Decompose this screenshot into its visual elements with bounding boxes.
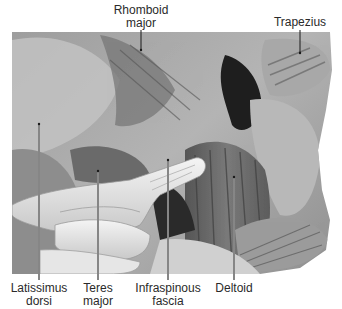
label-rhomboid-major-line2: major xyxy=(114,17,169,30)
label-latissimus-dorsi: Latissimus dorsi xyxy=(11,282,68,308)
dissection-photo xyxy=(0,0,342,309)
anatomy-figure: Rhomboid major Trapezius Latissimus dors… xyxy=(0,0,342,309)
label-rhomboid-major: Rhomboid major xyxy=(114,4,169,30)
label-latissimus-dorsi-line2: dorsi xyxy=(11,295,68,308)
label-trapezius: Trapezius xyxy=(274,16,326,29)
label-teres-major: Teres major xyxy=(83,282,113,308)
label-deltoid-line1: Deltoid xyxy=(215,282,252,295)
label-deltoid: Deltoid xyxy=(215,282,252,295)
label-teres-major-line2: major xyxy=(83,295,113,308)
label-trapezius-line1: Trapezius xyxy=(274,16,326,29)
label-infraspinous-fascia: Infraspinous fascia xyxy=(135,282,200,308)
label-infraspinous-fascia-line2: fascia xyxy=(135,295,200,308)
